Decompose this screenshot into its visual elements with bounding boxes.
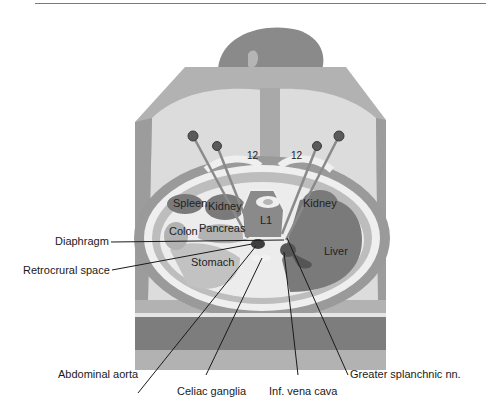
kidney-right-label: Kidney — [303, 198, 337, 209]
callout-inf-vena-cava: Inf. vena cava — [269, 386, 338, 397]
rib-12-left-label: 12 — [247, 151, 258, 161]
spleen-label: Spleen — [173, 198, 207, 209]
vertebra-l1-label: L1 — [260, 215, 272, 226]
callout-abdominal-aorta: Abdominal aorta — [58, 369, 138, 380]
liver-label: Liver — [324, 246, 348, 257]
cross-section — [134, 156, 390, 320]
rib-12-right-label: 12 — [291, 151, 302, 161]
callout-celiac-ganglia: Celiac ganglia — [177, 386, 246, 397]
callout-greater-splanchnic-nerves: Greater splanchnic nn. — [350, 369, 461, 380]
table-band — [135, 313, 386, 350]
callout-diaphragm: Diaphragm — [55, 236, 109, 247]
callout-retrocrural-space: Retrocrural space — [23, 265, 110, 276]
colon-label: Colon — [169, 226, 198, 237]
kidney-left-label: Kidney — [208, 201, 242, 212]
anatomy-illustration — [0, 0, 486, 410]
pancreas-label: Pancreas — [199, 223, 245, 234]
stomach-label: Stomach — [191, 257, 234, 268]
